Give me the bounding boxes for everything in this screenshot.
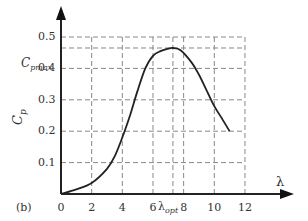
x-tick-label: 8 [180, 202, 187, 213]
panel-label: (b) [16, 202, 32, 213]
y-tick-label: 0.2 [38, 125, 56, 136]
x-tick-label: 12 [238, 202, 252, 213]
x-tick-label: 0 [58, 202, 65, 213]
cp-curve [61, 48, 230, 194]
grid-lines [61, 37, 245, 194]
x-axis-arrow-icon [280, 189, 294, 199]
y-tick-label: 0.3 [38, 94, 56, 105]
y-tick-label: 0.1 [38, 157, 56, 168]
x-tick-label: 4 [119, 202, 126, 213]
cpmax-label: Cpmax [21, 58, 52, 73]
x-tick-label: 10 [207, 202, 221, 213]
y-axis-title: Cp [12, 109, 29, 125]
y-tick-label: 0.5 [38, 31, 56, 42]
y-axis-arrow-icon [56, 6, 66, 20]
x-tick-label: 6 [149, 202, 156, 213]
lambda-opt-label: λopt [158, 201, 178, 216]
x-axis-title: λ [276, 176, 284, 187]
x-tick-label: 2 [88, 202, 95, 213]
